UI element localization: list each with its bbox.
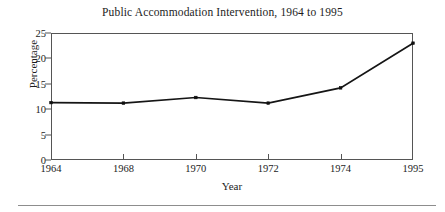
x-tick-label: 1964 <box>41 163 62 174</box>
data-point-marker <box>267 102 270 105</box>
x-axis-label: Year <box>51 180 413 192</box>
x-tick-mark <box>196 154 197 160</box>
x-tick-label: 1968 <box>113 163 134 174</box>
series-percentage <box>51 33 413 160</box>
x-axis-tick-labels: 196419681970197219741995 <box>51 163 413 179</box>
x-axis-tick-marks <box>51 154 413 160</box>
x-tick-mark <box>51 154 52 160</box>
data-point-marker <box>50 101 53 104</box>
series-markers <box>50 42 415 105</box>
series-line <box>51 43 413 103</box>
y-axis-tick-labels: 0510152025 <box>26 33 46 160</box>
x-tick-mark <box>123 154 124 160</box>
x-tick-mark <box>268 154 269 160</box>
chart-title: Public Accommodation Intervention, 1964 … <box>0 6 445 18</box>
x-tick-label: 1974 <box>330 163 351 174</box>
data-point-marker <box>122 102 125 105</box>
data-point-marker <box>412 42 415 45</box>
x-tick-label: 1972 <box>258 163 279 174</box>
x-tick-label: 1995 <box>403 163 424 174</box>
footer-divider <box>18 205 436 206</box>
x-tick-mark <box>412 154 413 160</box>
data-point-marker <box>339 87 342 90</box>
data-point-marker <box>195 96 198 99</box>
line-chart-figure: Public Accommodation Intervention, 1964 … <box>0 0 445 212</box>
plot-area <box>51 33 413 160</box>
x-tick-mark <box>341 154 342 160</box>
x-tick-label: 1970 <box>185 163 206 174</box>
